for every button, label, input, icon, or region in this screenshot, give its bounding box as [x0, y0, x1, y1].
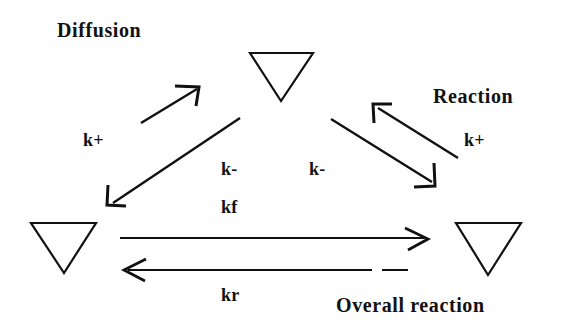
left-species-triangle [31, 223, 96, 273]
overall-reverse-arrow [124, 259, 408, 281]
reaction-reverse-arrow [331, 119, 435, 187]
rate-label-k-plus-reaction: k+ [464, 131, 485, 149]
right-species-triangle [456, 223, 521, 275]
top-species-triangle [250, 53, 313, 101]
reaction-label: Reaction [433, 86, 513, 106]
overall-reaction-label: Overall reaction [336, 295, 485, 315]
diffusion-forward-arrow [141, 86, 199, 123]
rate-label-k-minus-diffusion: k- [221, 160, 238, 178]
diagram-canvas: Diffusion Reaction k+ k+ k- k- kf kr Ove… [0, 0, 561, 332]
rate-label-k-plus-diffusion: k+ [83, 131, 104, 149]
diagram-graphics [0, 0, 561, 332]
overall-forward-arrow [120, 228, 428, 250]
diffusion-label: Diffusion [57, 20, 141, 40]
rate-label-kr: kr [221, 286, 240, 304]
rate-label-k-minus-reaction: k- [309, 160, 326, 178]
reaction-forward-arrow [373, 104, 458, 158]
rate-label-kf: kf [221, 198, 238, 216]
